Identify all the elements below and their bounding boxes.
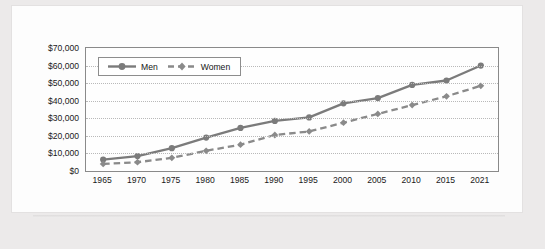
y-axis-tick-0: $0: [69, 166, 79, 176]
y-axis-tick-10000: $10,000: [48, 148, 79, 158]
gridline: [86, 136, 498, 137]
y-axis-tick-40000: $40,000: [48, 96, 79, 106]
gridline: [86, 118, 498, 119]
y-axis-tick-60000: $60,000: [48, 61, 79, 71]
y-axis-tick-70000: $70,000: [48, 43, 79, 53]
series-women: [100, 82, 484, 167]
x-axis-tick-1970: 1970: [127, 175, 146, 185]
chart-legend: Men Women: [98, 57, 241, 76]
legend-item-women[interactable]: Women: [167, 61, 230, 72]
x-axis-tick-2010: 2010: [402, 175, 421, 185]
series-line-women: [103, 86, 481, 164]
x-axis-tick-1985: 1985: [230, 175, 249, 185]
datapoint-women-2010: [409, 102, 416, 109]
legend-women-label: Women: [201, 62, 230, 72]
datapoint-women-1975: [168, 154, 175, 161]
x-axis-tick-2015: 2015: [436, 175, 455, 185]
datapoint-women-2015: [443, 93, 450, 100]
x-axis-tick-2005: 2005: [367, 175, 386, 185]
screenshot-root: $0$10,000$20,000$30,000$40,000$50,000$60…: [0, 0, 545, 249]
series-men: [100, 62, 484, 162]
gridline: [86, 83, 498, 84]
x-axis-labels: 1965197019751980198519901995200020052010…: [85, 175, 499, 193]
datapoint-men-1975: [169, 145, 175, 151]
datapoint-women-1970: [134, 159, 141, 166]
datapoint-women-1995: [306, 128, 313, 135]
x-axis-tick-1975: 1975: [161, 175, 180, 185]
gridline: [86, 101, 498, 102]
x-axis-tick-1980: 1980: [196, 175, 215, 185]
datapoint-men-1985: [237, 125, 243, 131]
datapoint-women-2000: [340, 119, 347, 126]
datapoint-women-1985: [237, 141, 244, 148]
y-axis-tick-50000: $50,000: [48, 78, 79, 88]
y-axis-labels: $0$10,000$20,000$30,000$40,000$50,000$60…: [0, 47, 83, 172]
x-axis-tick-2000: 2000: [333, 175, 352, 185]
legend-men-swatch-icon: [107, 61, 137, 72]
legend-men-label: Men: [141, 62, 158, 72]
legend-item-men[interactable]: Men: [107, 61, 158, 72]
gridline: [86, 153, 498, 154]
x-axis-tick-1990: 1990: [264, 175, 283, 185]
y-axis-tick-30000: $30,000: [48, 113, 79, 123]
series-line-men: [103, 66, 481, 160]
y-axis-tick-20000: $20,000: [48, 131, 79, 141]
datapoint-women-1965: [100, 161, 107, 168]
legend-women-swatch-icon: [167, 61, 197, 72]
x-axis-tick-1965: 1965: [93, 175, 112, 185]
datapoint-women-2005: [374, 110, 381, 117]
x-axis-tick-1995: 1995: [299, 175, 318, 185]
x-axis-tick-2021: 2021: [470, 175, 489, 185]
page-bottom-shadow: [33, 215, 505, 218]
